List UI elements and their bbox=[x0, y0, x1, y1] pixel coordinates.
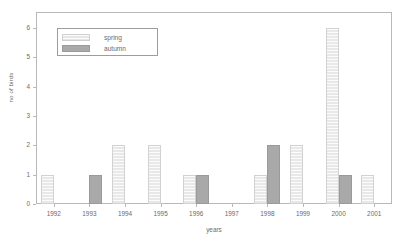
x-tick-mark bbox=[54, 204, 55, 207]
bar-chart: no of birds 0123456 19921993199419951996… bbox=[0, 0, 407, 247]
y-tick-mark bbox=[33, 204, 36, 205]
bar-spring-1996 bbox=[183, 175, 196, 204]
y-tick-label: 4 bbox=[26, 82, 30, 91]
bar-spring-2000 bbox=[326, 28, 339, 204]
legend-label-spring: spring bbox=[104, 34, 122, 41]
x-tick-label: 1998 bbox=[249, 210, 285, 217]
x-tick-label: 1994 bbox=[107, 210, 143, 217]
bar-spring-2001 bbox=[361, 175, 374, 204]
x-tick-label: 1996 bbox=[178, 210, 214, 217]
bar-spring-1995 bbox=[148, 145, 161, 204]
x-tick-mark bbox=[161, 204, 162, 207]
x-tick-mark bbox=[339, 204, 340, 207]
x-tick-label: 1995 bbox=[143, 210, 179, 217]
y-tick-3: 3 bbox=[0, 116, 36, 117]
y-tick-5: 5 bbox=[0, 57, 36, 58]
x-axis-title: years bbox=[36, 226, 392, 233]
x-tick-label: 2001 bbox=[356, 210, 392, 217]
legend-item-spring[interactable]: spring bbox=[62, 32, 157, 42]
bar-autumn-2000 bbox=[339, 175, 352, 204]
x-tick-label: 1993 bbox=[71, 210, 107, 217]
bar-spring-1994 bbox=[112, 145, 125, 204]
x-tick-mark bbox=[267, 204, 268, 207]
x-tick-label: 1999 bbox=[285, 210, 321, 217]
y-tick-mark bbox=[33, 175, 36, 176]
x-tick-label: 1997 bbox=[214, 210, 250, 217]
bar-spring-1992 bbox=[41, 175, 54, 204]
y-tick-mark bbox=[33, 28, 36, 29]
y-tick-mark bbox=[33, 87, 36, 88]
bar-autumn-1998 bbox=[267, 145, 280, 204]
y-tick-mark bbox=[33, 145, 36, 146]
spring-swatch-icon bbox=[62, 34, 90, 41]
y-tick-2: 2 bbox=[0, 145, 36, 146]
x-tick-label: 2000 bbox=[321, 210, 357, 217]
bar-spring-1998 bbox=[254, 175, 267, 204]
x-tick-mark bbox=[125, 204, 126, 207]
bar-autumn-1993 bbox=[89, 175, 102, 204]
y-tick-0: 0 bbox=[0, 204, 36, 205]
x-tick-label: 1992 bbox=[36, 210, 72, 217]
bar-autumn-1996 bbox=[196, 175, 209, 204]
y-tick-label: 3 bbox=[26, 111, 30, 120]
y-tick-1: 1 bbox=[0, 175, 36, 176]
x-tick-mark bbox=[303, 204, 304, 207]
chart-legend: spring autumn bbox=[57, 28, 158, 56]
legend-label-autumn: autumn bbox=[104, 45, 126, 52]
x-tick-mark bbox=[89, 204, 90, 207]
legend-item-autumn[interactable]: autumn bbox=[62, 43, 157, 53]
bar-spring-1999 bbox=[290, 145, 303, 204]
y-tick-mark bbox=[33, 116, 36, 117]
y-tick-label: 0 bbox=[26, 199, 30, 208]
y-tick-label: 5 bbox=[26, 52, 30, 61]
x-tick-mark bbox=[196, 204, 197, 207]
y-tick-4: 4 bbox=[0, 87, 36, 88]
autumn-swatch-icon bbox=[62, 45, 90, 52]
y-tick-6: 6 bbox=[0, 28, 36, 29]
y-tick-label: 2 bbox=[26, 140, 30, 149]
y-tick-label: 6 bbox=[26, 23, 30, 32]
y-tick-mark bbox=[33, 57, 36, 58]
x-tick-mark bbox=[232, 204, 233, 207]
y-tick-label: 1 bbox=[26, 170, 30, 179]
x-tick-mark bbox=[374, 204, 375, 207]
